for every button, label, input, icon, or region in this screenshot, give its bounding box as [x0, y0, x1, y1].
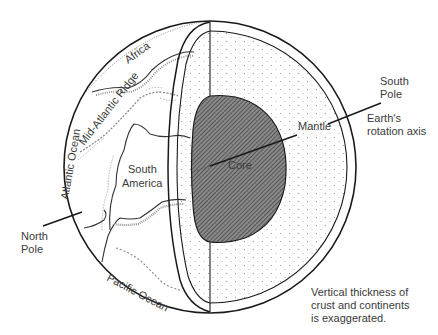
label-mantle: Mantle: [298, 120, 331, 132]
label-north-pole-1: North: [21, 230, 48, 242]
label-north-pole-2: Pole: [21, 243, 43, 255]
note-line-3: is exaggerated.: [311, 312, 386, 324]
label-core: Core: [228, 159, 252, 171]
label-axis-1: Earth's: [367, 112, 401, 124]
earth-interior-diagram: Africa Mid-Atlantic Ridge Atlantic Ocean…: [0, 0, 438, 335]
label-south-america-2: America: [122, 177, 163, 189]
label-axis-2: rotation axis: [367, 125, 427, 137]
label-south-america-1: South: [128, 163, 157, 175]
note-line-2: crust and continents: [311, 299, 410, 311]
label-south-pole-1: South: [380, 75, 409, 87]
label-south-pole-2: Pole: [380, 88, 402, 100]
note-line-1: Vertical thickness of: [311, 286, 409, 298]
